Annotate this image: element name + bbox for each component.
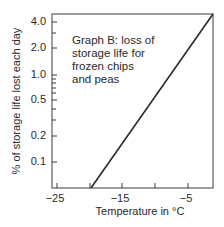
y-tick-label: 0.5 xyxy=(22,93,46,105)
y-tick-label: 1.0 xyxy=(22,68,46,80)
x-tick-label: −5 xyxy=(171,192,201,204)
x-axis-label: Temperature in °C xyxy=(70,205,210,217)
y-axis-ticks xyxy=(52,22,57,162)
x-tick-label: −25 xyxy=(40,192,70,204)
y-tick-label: 0.2 xyxy=(22,129,46,141)
y-tick-label: 2.0 xyxy=(22,41,46,53)
y-tick-label: 4.0 xyxy=(22,15,46,27)
x-tick-label: −15 xyxy=(105,192,135,204)
y-tick-label: 0.1 xyxy=(22,155,46,167)
chart-title: Graph B: loss of storage life for frozen… xyxy=(72,34,182,86)
x-axis-ticks xyxy=(57,183,188,188)
